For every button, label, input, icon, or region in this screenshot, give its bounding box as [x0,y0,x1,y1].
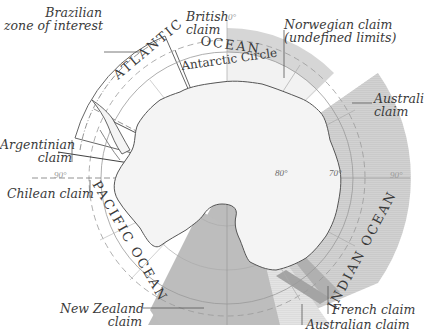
new-zealand-claim-label: New Zealand claim [60,302,142,328]
australian-south-line1: Australian claim [306,318,410,331]
norwegian-claim-label: Norwegian claim (undefined limits) [284,18,396,44]
new-zealand-line2: claim [60,315,142,328]
degree-70-label: 70° [329,168,342,178]
degree-90-east-label: 90° [390,170,403,180]
british-claim-label: British claim [186,10,229,36]
argentinian-claim-label: Argentinian claim [0,138,72,164]
norwegian-line2: (undefined limits) [284,31,396,44]
argentinian-line2: claim [0,151,72,164]
chilean-line1: Chilean claim [7,187,94,200]
british-line2: claim [186,23,229,36]
australian-claim-east-label: Australi claim [374,92,424,118]
brazilian-zone-label: Brazilian zone of interest [18,6,102,32]
french-line1: French claim [332,303,415,316]
australian-claim-south-label: Australian claim [306,318,410,331]
atlantic-label: ATLANTIC [110,15,187,83]
australian-east-line2: claim [374,105,424,118]
degree-80-label: 80° [275,168,288,178]
chilean-claim-label: Chilean claim [7,187,94,200]
degree-0-label: 0° [228,12,236,22]
degree-90-west-label: 90° [54,170,67,180]
french-claim-label: French claim [332,303,415,316]
brazilian-line2: zone of interest [4,19,102,32]
